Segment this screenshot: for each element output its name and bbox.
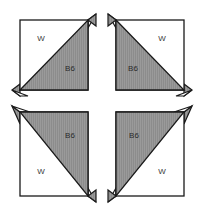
dark-fabric-label: B6 bbox=[129, 131, 139, 140]
dark-fabric-label: B6 bbox=[128, 64, 138, 73]
light-fabric-label: W bbox=[158, 34, 166, 43]
light-fabric-label: W bbox=[37, 167, 45, 176]
dark-fabric-label: B6 bbox=[65, 64, 75, 73]
dark-fabric-label: B6 bbox=[65, 131, 75, 140]
block-canvas: W B6 W B6 B6 W bbox=[0, 0, 204, 215]
unit-top-left: W B6 bbox=[12, 14, 96, 96]
unit-top-right: W B6 bbox=[108, 14, 192, 96]
unit-bottom-right: B6 W bbox=[108, 106, 192, 202]
quilt-block-diagram: W B6 W B6 B6 W bbox=[0, 0, 204, 215]
light-fabric-label: W bbox=[37, 34, 45, 43]
light-fabric-label: W bbox=[158, 167, 166, 176]
unit-bottom-left: B6 W bbox=[12, 106, 96, 202]
